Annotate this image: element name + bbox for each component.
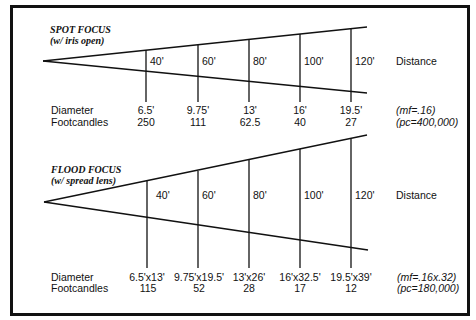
flood-distance-100: 100' [304,189,324,201]
flood-footcandles-40: 115 [140,282,157,294]
flood-distance-60: 60' [202,189,216,201]
flood-focus-subtitle: (w/ spread lens) [51,175,116,186]
flood-beam-bottom-edge [44,202,368,250]
spot-pc-note: (pc=400,000) [396,116,458,128]
flood-distance-120: 120' [355,189,375,201]
flood-footcandles-label: Footcandles [51,282,108,294]
spot-footcandles-40: 250 [137,116,155,128]
spot-footcandles-label: Footcandles [51,116,108,128]
spot-diameter-120: 19.5' [340,104,362,116]
spot-diameter-label: Diameter [51,104,94,116]
flood-footcandles-100: 17 [294,282,306,294]
spot-distance-120: 120' [355,55,375,67]
flood-footcandles-80: 28 [243,282,255,294]
spot-footcandles-60: 111 [190,116,206,128]
spot-distance-100: 100' [304,55,324,67]
spot-diameter-60: 9.75' [187,104,209,116]
flood-distance-label: Distance [396,189,437,201]
spot-distance-40: 40' [150,55,164,67]
flood-focus-title: FLOOD FOCUS [51,164,121,175]
spot-footcandles-120: 27 [345,116,357,128]
flood-distance-80: 80' [253,189,267,201]
spot-distance-80: 80' [253,55,267,67]
flood-pc-note: (pc=180,000) [397,282,459,294]
spot-diameter-80: 13' [243,104,257,116]
spot-focus-subtitle: (w/ iris open) [50,35,104,46]
spot-diameter-40: 6.5' [138,104,155,116]
spot-mf-note: (mf=.16) [396,104,435,116]
flood-footcandles-60: 52 [193,282,205,294]
spot-footcandles-100: 40 [294,116,306,128]
spot-distance-60: 60' [202,55,216,67]
spot-diameter-100: 16' [293,104,307,116]
spot-focus-title: SPOT FOCUS [50,24,111,35]
spot-distance-label: Distance [396,55,437,67]
spot-footcandles-80: 62.5 [240,116,260,128]
flood-distance-40: 40' [156,189,170,201]
flood-footcandles-120: 12 [345,282,357,294]
